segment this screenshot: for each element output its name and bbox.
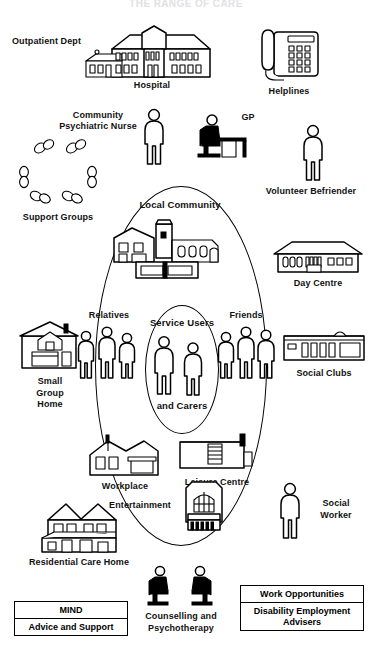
label-social-worker: Social Worker <box>306 498 366 521</box>
standing-person-icon <box>141 108 167 166</box>
small-house-icon <box>18 320 82 372</box>
label-gp: GP <box>232 112 264 123</box>
label-support-groups: Support Groups <box>12 212 104 223</box>
label-workplace: Workplace <box>84 481 166 492</box>
label-local-community: Local Community <box>112 200 248 211</box>
telephone-icon <box>258 28 320 84</box>
people-group-icon <box>76 324 138 382</box>
label-community-psychiatric-nurse: Community Psychiatric Nurse <box>56 110 140 131</box>
label-outpatient-dept: Outpatient Dept <box>6 36 81 47</box>
work-opportunities-title: Work Opportunities <box>241 586 363 602</box>
label-day-centre: Day Centre <box>274 278 362 289</box>
day-centre-building-icon <box>272 238 364 276</box>
people-group-icon <box>216 324 278 382</box>
service-users-figures-icon <box>150 334 212 398</box>
label-volunteer-befriender: Volunteer Befriender <box>252 186 370 197</box>
twin-gabled-house-icon <box>36 498 120 554</box>
circle-of-people-icon <box>14 142 102 208</box>
label-friends: Friends <box>218 310 274 321</box>
two-seated-people-icon <box>146 565 214 609</box>
disability-employment-advisers: Disability Employment Advisers <box>241 602 363 630</box>
page-title: THE RANGE OF CARE <box>0 0 372 9</box>
label-hospital: Hospital <box>120 80 184 91</box>
workplace-building-icon <box>86 433 172 481</box>
label-service-users: Service Users <box>141 318 223 329</box>
standing-person-icon <box>300 124 326 182</box>
label-small-group-home: Small Group Home <box>16 376 84 411</box>
mind-title: MIND <box>15 602 127 618</box>
diagram-canvas: THE RANGE OF CARE Outpatient Dept <box>0 0 372 670</box>
label-social-clubs: Social Clubs <box>282 368 366 379</box>
standing-person-icon <box>277 482 303 540</box>
social-club-building-icon <box>282 328 366 362</box>
church-and-shops-icon <box>110 216 232 282</box>
employment-box: Work Opportunities Disability Employment… <box>240 585 364 631</box>
theatre-building-icon <box>183 478 225 534</box>
mind-subtitle: Advice and Support <box>15 618 127 635</box>
leisure-centre-icon <box>178 432 256 474</box>
label-counselling-and-psychotherapy: Counselling and Psychotherapy <box>126 611 236 634</box>
label-residential-care-home: Residential Care Home <box>8 557 150 568</box>
label-and-carers: and Carers <box>143 401 221 412</box>
mind-box: MIND Advice and Support <box>14 601 128 636</box>
label-helplines: Helplines <box>246 86 332 97</box>
hospital-building-icon <box>82 27 212 79</box>
label-relatives: Relatives <box>78 310 140 321</box>
